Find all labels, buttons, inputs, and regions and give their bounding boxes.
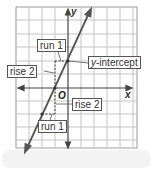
coordinate-plane [0,0,151,171]
x-intercept-point [53,86,56,89]
x-axis-label: x [125,89,131,100]
run-top-label: run 1 [37,39,66,52]
y-axis-label: y [71,6,77,17]
y-intercept-label: y-intercept [88,56,141,69]
rise-bottom-label: rise 2 [72,98,102,111]
y-intercept-point [66,59,69,62]
origin-label: O [58,90,66,101]
line-bottom-arrow [25,144,31,152]
run-bottom-label: run 1 [38,120,67,133]
point-below [40,112,43,115]
y-intercept-text: -intercept [96,57,138,68]
rise-top-label: rise 2 [7,65,37,78]
